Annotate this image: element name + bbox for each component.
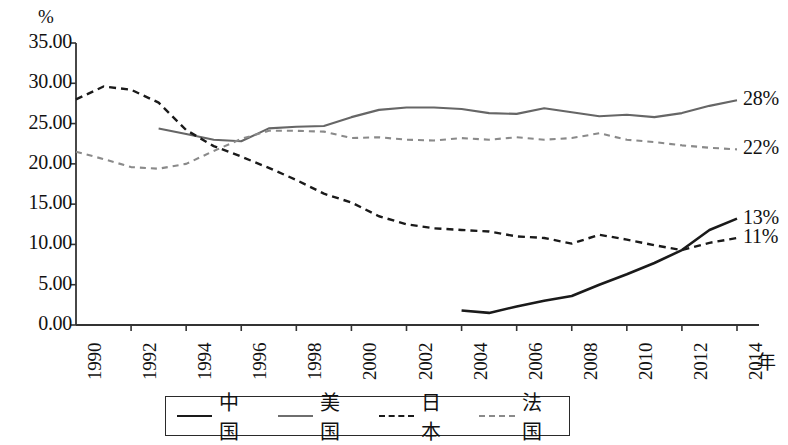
series-line-2 <box>76 87 737 251</box>
legend-item-2[interactable]: 日本 <box>368 387 469 445</box>
x-axis-tick-label: 1994 <box>194 343 216 380</box>
y-axis-tick-label: 10.00 <box>0 231 72 254</box>
legend-label: 日本 <box>421 387 457 445</box>
x-axis-tick-label: 1998 <box>304 343 326 380</box>
x-axis-tick-label: 2002 <box>415 343 437 380</box>
x-axis-tick-label: 2004 <box>470 343 492 380</box>
y-axis-tick-label: 15.00 <box>0 191 72 214</box>
x-axis-unit-label: 年 <box>757 347 776 374</box>
legend-item-3[interactable]: 法国 <box>468 387 569 445</box>
x-axis-tick-label: 1996 <box>249 343 271 380</box>
legend-swatch-dashed-icon <box>379 415 414 417</box>
y-axis-tick-label: 5.00 <box>0 272 72 295</box>
legend-swatch-dashed-icon <box>479 415 514 417</box>
x-axis-tick-label: 2010 <box>635 343 657 380</box>
y-axis-tick-label: 30.00 <box>0 70 72 93</box>
y-axis-tick-label: 25.00 <box>0 111 72 134</box>
legend-swatch-solid-icon <box>177 415 212 417</box>
series-end-label-2: 11% <box>743 225 778 248</box>
series-line-3 <box>76 131 737 169</box>
y-axis-tick-label: 35.00 <box>0 30 72 53</box>
series-line-1 <box>159 100 737 141</box>
series-end-label-3: 22% <box>743 136 779 159</box>
series-end-label-1: 28% <box>743 87 779 110</box>
y-axis-tick-label: 0.00 <box>0 312 72 335</box>
x-axis-tick-label: 2008 <box>580 343 602 380</box>
x-axis-tick-label: 2012 <box>690 343 712 380</box>
legend-label: 美国 <box>320 387 356 445</box>
legend-item-1[interactable]: 美国 <box>267 387 368 445</box>
legend-label: 法国 <box>522 387 558 445</box>
x-axis-tick-label: 2000 <box>359 343 381 380</box>
x-axis-tick-label: 1990 <box>84 343 106 380</box>
legend-item-0[interactable]: 中国 <box>166 387 267 445</box>
series-line-0 <box>462 219 737 313</box>
x-axis-tick-label: 2006 <box>525 343 547 380</box>
y-axis-tick-label: 20.00 <box>0 151 72 174</box>
legend-swatch-solid-icon <box>278 415 313 417</box>
chart-legend: 中国美国日本法国 <box>165 396 570 436</box>
x-axis-tick-label: 1992 <box>139 343 161 380</box>
legend-label: 中国 <box>219 387 255 445</box>
